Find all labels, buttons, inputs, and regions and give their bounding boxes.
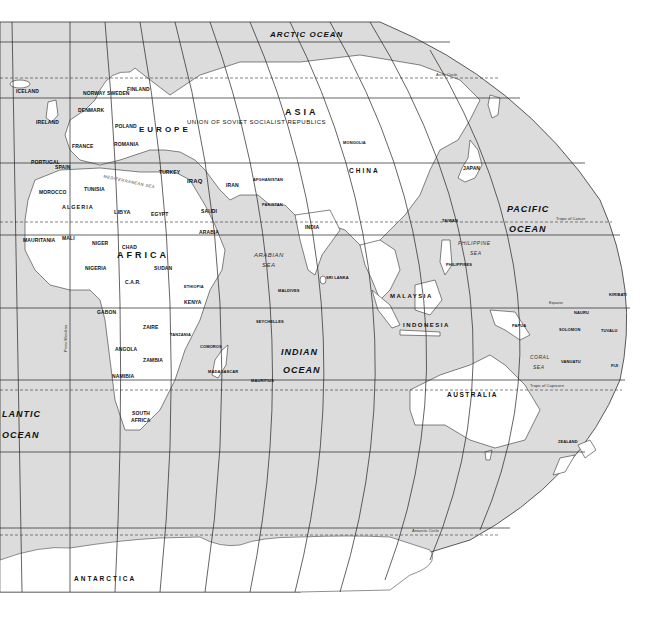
country-label-india: INDIA [305, 225, 319, 230]
continent-label-australia: AUSTRALIA [447, 392, 498, 399]
country-label-tuvalu: TUVALU [601, 329, 618, 333]
country-label-comoros: COMOROS [200, 345, 222, 349]
sea-label-philippine-1: PHILIPPINE [458, 241, 491, 246]
continent-label-antarctica: ANTARCTICA [74, 576, 136, 583]
country-label-iceland: ICELAND [16, 89, 39, 94]
label-tropic-capricorn: Tropic of Capricorn [530, 384, 564, 388]
country-label-philippines: PHILIPPINES [446, 263, 472, 267]
country-label-car: C.A.R. [125, 280, 141, 285]
country-label-norway: NORWAY [83, 91, 106, 96]
sea-label-philippine-2: SEA [470, 251, 482, 256]
country-label-namibia: NAMIBIA [112, 374, 134, 379]
label-arctic-circle: Arctic Circle [436, 73, 457, 77]
country-label-romania: ROMANIA [114, 142, 139, 147]
country-label-ethiopia: ETHIOPIA [184, 285, 204, 289]
country-label-chad: CHAD [122, 245, 137, 250]
country-label-saudi-1: SAUDI [201, 209, 217, 214]
ocean-label-arctic: ARCTIC OCEAN [270, 31, 343, 39]
country-label-afghanistan: AFGHANISTAN [253, 178, 283, 182]
country-label-niger: NIGER [92, 241, 108, 246]
country-label-nigeria: NIGERIA [85, 266, 107, 271]
country-label-mongolia: MONGOLIA [343, 141, 366, 145]
label-antarctic-circle: Antarctic Circle [412, 529, 439, 533]
continent-label-asia: ASIA [285, 108, 319, 117]
country-label-iran: IRAN [226, 183, 239, 188]
country-label-denmark: DENMARK [78, 108, 104, 113]
ocean-label-indian-1: INDIAN [281, 348, 318, 357]
country-label-japan: JAPAN [463, 166, 480, 171]
country-label-tunisia: TUNISIA [84, 187, 105, 192]
country-label-angola: ANGOLA [115, 347, 137, 352]
country-label-zaire: ZAIRE [143, 325, 159, 330]
ocean-label-indian-2: OCEAN [283, 366, 321, 375]
sea-label-coral-2: SEA [533, 365, 545, 370]
country-label-taiwan: TAIWAN [442, 219, 458, 223]
country-label-madagascar: MADAGASCAR [208, 370, 238, 374]
country-label-south-africa-1: SOUTH [132, 411, 150, 416]
country-label-saudi-2: ARABIA [199, 230, 219, 235]
ocean-label-pacific-2: OCEAN [509, 225, 547, 234]
country-label-solomon: SOLOMON [559, 328, 580, 332]
country-label-turkey: TURKEY [159, 170, 180, 175]
country-label-mali: MALI [62, 236, 75, 241]
sea-label-arabian-2: SEA [262, 262, 276, 268]
sea-label-coral-1: CORAL [530, 355, 550, 360]
country-label-mauritius: MAURITIUS [251, 379, 274, 383]
country-label-mauritania: MAURITANIA [23, 238, 55, 243]
country-label-maldives: MALDIVES [278, 289, 299, 293]
ocean-label-pacific-1: PACIFIC [507, 205, 549, 214]
region-label-ussr: UNION OF SOVIET SOCIALIST REPUBLICS [187, 119, 326, 125]
country-label-sri-lanka: SRI LANKA [326, 276, 349, 280]
country-label-south-africa-2: AFRICA [131, 418, 151, 423]
country-label-new-zealand: ZEALAND [558, 440, 578, 444]
country-label-libya: LIBYA [114, 210, 131, 216]
continent-label-europe: EUROPE [139, 126, 191, 134]
country-label-malaysia: MALAYSIA [390, 293, 433, 299]
country-label-kiribati: KIRIBATI [609, 293, 627, 297]
country-label-zambia: ZAMBIA [143, 358, 163, 363]
country-label-poland: POLAND [115, 124, 137, 129]
label-tropic-cancer: Tropic of Cancer [556, 217, 585, 221]
country-label-france: FRANCE [72, 144, 93, 149]
country-label-gabon: GABON [97, 310, 116, 315]
country-label-pakistan: PAKISTAN [262, 203, 283, 207]
country-label-morocco: MOROCCO [39, 190, 66, 195]
country-label-spain: SPAIN [55, 165, 70, 170]
label-equator: Equator [549, 301, 563, 305]
country-label-ireland: IRELAND [36, 120, 59, 125]
country-label-seychelles: SEYCHELLES [256, 320, 284, 324]
country-label-indonesia: INDONESIA [403, 322, 450, 328]
ocean-label-atlantic-2: OCEAN [2, 431, 40, 440]
country-label-nauru: NAURU [574, 311, 589, 315]
country-label-china: CHINA [349, 168, 380, 175]
country-label-finland: FINLAND [127, 87, 150, 92]
sea-label-arabian-1: ARABIAN [254, 252, 284, 258]
country-label-algeria: ALGERIA [62, 205, 94, 211]
country-label-iraq: IRAQ [187, 178, 202, 184]
continent-label-africa: AFRICA [117, 251, 169, 260]
country-label-sudan: SUDAN [154, 266, 172, 271]
country-label-tanzania: TANZANIA [170, 333, 191, 337]
label-prime-meridian: Prime Meridian [64, 325, 68, 352]
ocean-label-atlantic-1: LANTIC [2, 410, 41, 419]
country-label-fiji: FIJI [611, 364, 618, 368]
country-label-kenya: KENYA [184, 300, 202, 305]
country-label-vanuatu: VANUATU [561, 360, 581, 364]
country-label-png: PAPUA [512, 324, 526, 328]
country-label-egypt: EGYPT [151, 212, 168, 217]
